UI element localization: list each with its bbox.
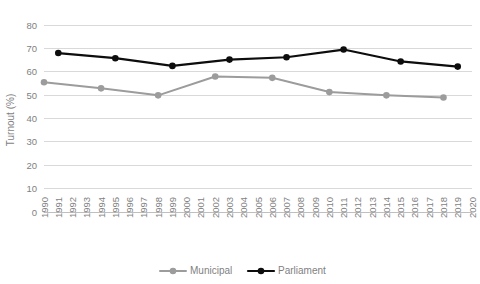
line-chart: 01020304050607080 Turnout (%) 1990199119… — [0, 0, 480, 284]
x-axis-ticks: 1990199119921993199419951996199719981999… — [39, 197, 478, 218]
x-axis-tick-label: 2007 — [281, 197, 292, 218]
x-axis-tick-label: 1994 — [96, 197, 107, 218]
x-axis-tick-label: 2017 — [424, 197, 435, 218]
y-axis-tick-label: 60 — [26, 66, 37, 77]
data-point-parliament — [454, 63, 461, 70]
data-point-parliament — [226, 56, 233, 63]
x-axis-tick-label: 1999 — [167, 197, 178, 218]
legend-label-parliament: Parliament — [278, 265, 326, 276]
x-axis-tick-label: 2006 — [267, 197, 278, 218]
x-axis-tick-label: 2015 — [395, 197, 406, 218]
x-axis-tick-label: 1992 — [67, 197, 78, 218]
y-axis-ticks: 01020304050607080 — [26, 20, 37, 218]
x-axis-tick-label: 2013 — [367, 197, 378, 218]
data-point-municipal — [383, 92, 390, 99]
x-axis-tick-label: 1996 — [124, 197, 135, 218]
chart-container: 01020304050607080 Turnout (%) 1990199119… — [0, 0, 480, 284]
x-axis-tick-label: 2018 — [438, 197, 449, 218]
x-axis-tick-label: 2012 — [352, 197, 363, 218]
y-axis-tick-label: 10 — [26, 183, 37, 194]
x-axis-tick-label: 1995 — [110, 197, 121, 218]
x-axis-tick-label: 2005 — [253, 197, 264, 218]
x-axis-tick-label: 2020 — [467, 197, 478, 218]
x-axis-tick-label: 2001 — [195, 197, 206, 218]
data-point-parliament — [112, 55, 119, 62]
x-axis-tick-label: 1990 — [39, 197, 50, 218]
data-point-municipal — [155, 92, 162, 99]
data-point-municipal — [440, 94, 447, 101]
x-axis-tick-label: 2000 — [181, 197, 192, 218]
x-axis-tick-label: 2003 — [224, 197, 235, 218]
x-axis-tick-label: 2016 — [409, 197, 420, 218]
x-axis-tick-label: 2008 — [295, 197, 306, 218]
legend-marker-parliament — [258, 268, 265, 275]
x-axis-tick-label: 2004 — [238, 197, 249, 218]
x-axis-tick-label: 1991 — [53, 197, 64, 218]
x-axis-tick-label: 2011 — [338, 198, 349, 218]
y-axis-title-group: Turnout (%) — [5, 94, 16, 146]
x-axis-tick-label: 2010 — [324, 197, 335, 218]
data-point-municipal — [326, 89, 333, 96]
data-point-municipal — [269, 75, 276, 82]
y-axis-tick-label: 30 — [26, 136, 37, 147]
x-axis-tick-label: 2002 — [210, 197, 221, 218]
x-axis-tick-label: 1998 — [153, 197, 164, 218]
data-point-municipal — [98, 85, 105, 92]
x-axis-tick-label: 1993 — [81, 197, 92, 218]
data-point-parliament — [283, 54, 290, 61]
data-point-parliament — [340, 46, 347, 53]
y-axis-tick-label: 50 — [26, 90, 37, 101]
data-point-municipal — [41, 79, 48, 86]
gridlines — [44, 25, 472, 212]
y-axis-title: Turnout (%) — [5, 94, 16, 146]
data-point-parliament — [55, 50, 62, 57]
x-axis-tick-label: 1997 — [138, 197, 149, 218]
y-axis-tick-label: 80 — [26, 20, 37, 31]
chart-legend: MunicipalParliament — [160, 265, 326, 276]
y-axis-tick-label: 40 — [26, 113, 37, 124]
y-axis-tick-label: 0 — [32, 207, 37, 218]
y-axis-tick-label: 70 — [26, 43, 37, 54]
data-point-parliament — [169, 63, 176, 70]
series-parliament — [55, 46, 461, 70]
series-municipal — [41, 73, 447, 101]
x-axis-tick-label: 2014 — [381, 197, 392, 218]
x-axis-tick-label: 2019 — [452, 197, 463, 218]
data-point-municipal — [212, 73, 219, 80]
data-point-parliament — [397, 58, 404, 65]
y-axis-tick-label: 20 — [26, 160, 37, 171]
legend-marker-municipal — [170, 268, 177, 275]
x-axis-tick-label: 2009 — [310, 197, 321, 218]
legend-label-municipal: Municipal — [190, 265, 232, 276]
